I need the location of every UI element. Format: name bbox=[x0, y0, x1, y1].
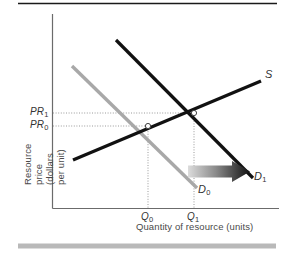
curve-label-d1-sub: 1 bbox=[262, 175, 266, 184]
y-tick-label-pr1: PR1 bbox=[30, 107, 48, 117]
equilibrium-point-e0 bbox=[145, 123, 150, 128]
y-tick-pr0-sub: 0 bbox=[44, 123, 48, 132]
x-tick-label-q1: Q1 bbox=[187, 212, 199, 222]
x-tick-label-q0: Q0 bbox=[141, 212, 153, 222]
curve-label-d0-base: D bbox=[198, 183, 206, 195]
curve-label-d1-base: D bbox=[254, 170, 262, 182]
curve-label-s-base: S bbox=[265, 68, 272, 80]
equilibrium-point-e1 bbox=[191, 110, 196, 115]
x-tick-q0-base: Q bbox=[141, 211, 149, 222]
y-tick-pr0-base: PR bbox=[30, 119, 44, 130]
y-tick-pr1-base: PR bbox=[30, 106, 44, 117]
demand-curve-d0 bbox=[72, 66, 197, 188]
x-tick-q0-sub: 0 bbox=[149, 215, 153, 224]
supply-demand-figure: Resource price (dollars per unit) Quanti… bbox=[0, 0, 292, 254]
y-axis-title: Resource price (dollars per unit) bbox=[22, 144, 66, 185]
x-tick-q1-sub: 1 bbox=[195, 215, 199, 224]
curve-label-s: S bbox=[265, 69, 272, 80]
curve-label-d0: D0 bbox=[198, 184, 210, 195]
x-tick-q1-base: Q bbox=[187, 211, 195, 222]
demand-curve-d1 bbox=[116, 40, 253, 178]
y-tick-label-pr0: PR0 bbox=[30, 120, 48, 130]
curve-label-d1: D1 bbox=[254, 171, 266, 182]
y-tick-pr1-sub: 1 bbox=[44, 110, 48, 119]
curve-label-d0-sub: 0 bbox=[206, 188, 210, 197]
bottom-bar bbox=[18, 244, 276, 249]
y-axis-title-wrap: Resource price (dollars per unit) bbox=[9, 30, 25, 190]
